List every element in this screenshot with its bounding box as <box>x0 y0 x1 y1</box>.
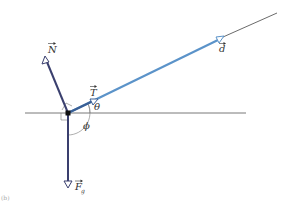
svg-text:N: N <box>47 44 58 55</box>
junction-point <box>66 111 71 116</box>
label-tension: T <box>90 85 98 98</box>
label-gravity: F g <box>74 180 85 196</box>
svg-text:d: d <box>219 43 225 54</box>
displacement-arrowhead-icon <box>216 36 224 43</box>
tension-vector-line <box>68 102 92 114</box>
panel-label: (b) <box>1 194 10 201</box>
svg-text:g: g <box>81 187 85 195</box>
label-theta: θ <box>94 101 100 112</box>
force-diagram: N T d F g θ ϕ (b) <box>0 0 291 203</box>
incline-extension-line <box>223 13 277 37</box>
label-phi: ϕ <box>83 120 90 131</box>
label-normal-force: N <box>47 42 58 55</box>
normal-force-arrowhead-icon <box>42 56 49 64</box>
normal-force-vector-line <box>47 62 68 113</box>
svg-text:T: T <box>90 87 98 98</box>
gravity-arrowhead-icon <box>64 181 72 188</box>
label-displacement: d <box>219 42 226 54</box>
